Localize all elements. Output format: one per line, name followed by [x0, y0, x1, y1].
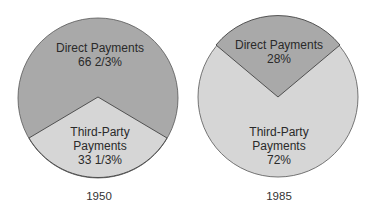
direct-label: Direct Payments: [235, 38, 323, 52]
year-label-1950: 1950: [86, 190, 112, 202]
third-party-value: 33 1/3%: [70, 153, 129, 167]
pie-charts: [0, 0, 377, 215]
direct-value: 66 2/3%: [56, 55, 144, 69]
third-party-label-line1: Third-Party: [249, 125, 308, 139]
label-third-party-1985: Third-Party Payments 72%: [249, 125, 308, 167]
third-party-value: 72%: [249, 153, 308, 167]
label-third-party-1950: Third-Party Payments 33 1/3%: [70, 125, 129, 167]
third-party-label-line2: Payments: [70, 139, 129, 153]
third-party-label-line2: Payments: [249, 139, 308, 153]
direct-value: 28%: [235, 52, 323, 66]
label-direct-1950: Direct Payments 66 2/3%: [56, 41, 144, 69]
direct-label: Direct Payments: [56, 41, 144, 55]
third-party-label-line1: Third-Party: [70, 125, 129, 139]
year-label-1985: 1985: [266, 190, 292, 202]
label-direct-1985: Direct Payments 28%: [235, 38, 323, 66]
